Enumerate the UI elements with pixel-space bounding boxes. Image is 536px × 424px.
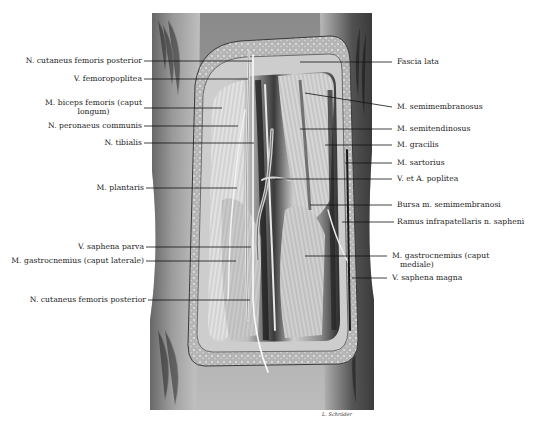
label-m-plantaris: M. plantaris — [97, 183, 144, 192]
label-v-et-a-poplitea: V. et A. poplitea — [397, 174, 458, 183]
label-m-semitendinosus: M. semitendinosus — [397, 124, 470, 133]
label-bursa-m-semimembranosi: Bursa m. semimembranosi — [397, 200, 501, 209]
label-ramus-infrapatellaris-n-sapheni: Ramus infrapatellaris n. sapheni — [397, 217, 524, 226]
anatomical-figure: L. Schröder N. cutaneu — [0, 0, 536, 424]
label-n-tibialis: N. tibialis — [104, 138, 142, 147]
label-m-gastrocnemius-caput-mediale: M. gastrocnemius (caput mediale) — [392, 251, 489, 269]
artist-signature: L. Schröder — [321, 411, 353, 417]
label-v-saphena-parva: V. saphena parva — [78, 242, 144, 251]
label-m-semimembranosus: M. semimembranosus — [397, 102, 483, 111]
label-v-saphena-magna: V. saphena magna — [392, 273, 462, 282]
label-m-sartorius: M. sartorius — [397, 158, 445, 167]
label-n-peronaeus-communis: N. peronaeus communis — [48, 121, 142, 130]
label-n-cutaneus-femoris-posterior-lower: N. cutaneus femoris posterior — [30, 295, 146, 304]
label-n-cutaneus-femoris-posterior-upper: N. cutaneus femoris posterior — [26, 56, 142, 65]
label-v-femoropoplitea: V. femoropoplitea — [74, 74, 142, 83]
label-m-gastrocnemius-caput-laterale: M. gastrocnemius (caput laterale) — [11, 256, 144, 265]
label-m-gracilis: M. gracilis — [397, 140, 439, 149]
label-fascia-lata: Fascia lata — [397, 57, 439, 66]
label-m-biceps-femoris: M. biceps femoris (caput longum) — [45, 98, 142, 116]
